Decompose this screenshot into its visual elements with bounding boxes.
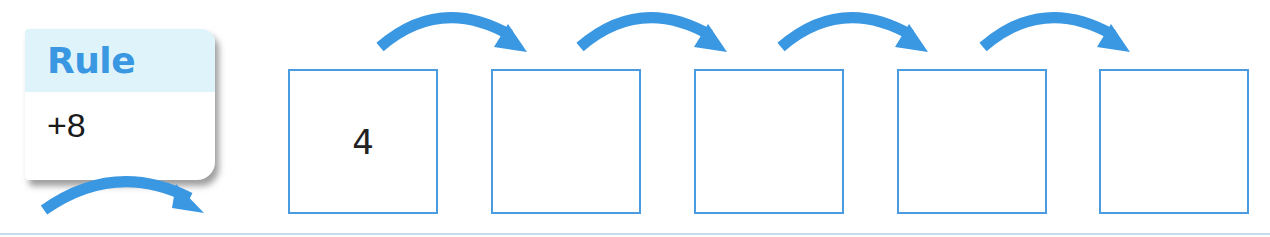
sequence-box[interactable] (694, 69, 844, 214)
arrow-icon (781, 18, 928, 52)
arrow-icon (380, 18, 527, 52)
arrow-icon (983, 18, 1130, 52)
sequence-box[interactable] (897, 69, 1047, 214)
sequence-box[interactable] (491, 69, 641, 214)
box-value: 4 (352, 122, 374, 162)
divider (0, 233, 1270, 235)
arrow-icon (580, 18, 727, 52)
sequence-box[interactable] (1099, 69, 1249, 214)
sequence-box[interactable]: 4 (288, 69, 438, 214)
rule-arrow-icon (44, 182, 204, 213)
